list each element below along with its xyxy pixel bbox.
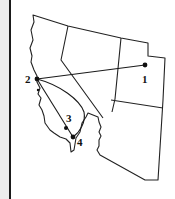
point-label-4: 4 <box>77 137 83 148</box>
route-2-to-4-curve <box>37 79 84 137</box>
region-outline <box>30 15 165 180</box>
route-2-to-1 <box>37 65 145 79</box>
region-map <box>0 0 175 199</box>
ut-az-border <box>111 100 163 108</box>
point-label-2: 2 <box>25 74 31 85</box>
ca-nv-border <box>61 26 103 118</box>
point-2 <box>35 77 40 82</box>
coast-dot <box>37 89 39 91</box>
point-4 <box>71 135 76 140</box>
point-label-1: 1 <box>142 74 148 85</box>
point-1 <box>143 63 148 68</box>
point-label-3: 3 <box>66 113 72 124</box>
point-3 <box>64 126 68 130</box>
